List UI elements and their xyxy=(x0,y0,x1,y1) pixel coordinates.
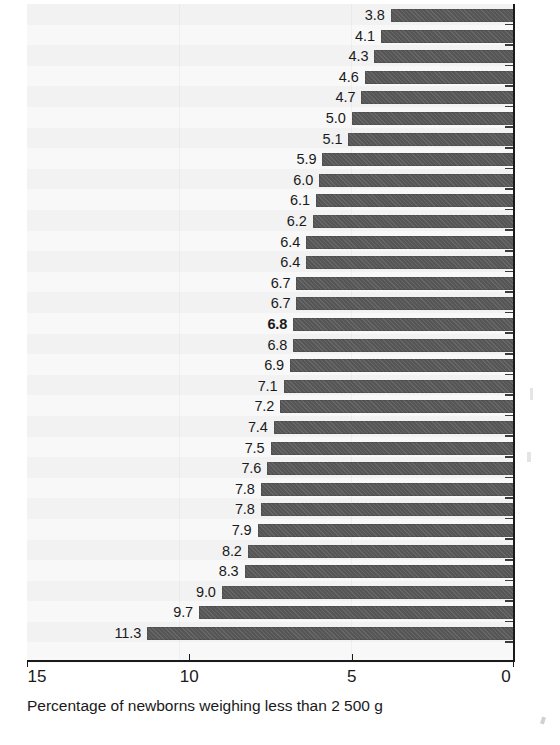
y-axis-tick xyxy=(505,188,513,190)
y-axis-tick xyxy=(505,312,513,314)
bar-value-label: 9.0 xyxy=(196,582,216,602)
x-axis-tick xyxy=(513,660,514,667)
y-axis-tick xyxy=(505,250,513,252)
bar xyxy=(245,565,514,578)
y-axis-tick xyxy=(505,518,513,520)
bar xyxy=(147,627,514,640)
margin-artifact-bottom xyxy=(527,452,531,462)
bar-row: 7.5 xyxy=(27,439,514,460)
y-axis-tick xyxy=(505,353,513,355)
bar xyxy=(352,112,514,125)
bar-row: 7.2 xyxy=(27,397,514,418)
x-axis-tick-label: 10 xyxy=(180,667,199,687)
x-axis-tick xyxy=(189,654,190,662)
margin-artifact-top xyxy=(530,388,533,400)
bar-row: 4.7 xyxy=(27,88,514,109)
y-axis-tick xyxy=(505,44,513,46)
bar xyxy=(348,133,514,146)
bar-value-label: 5.9 xyxy=(297,149,317,169)
bar-row: 5.0 xyxy=(27,109,514,130)
bar-value-label: 7.8 xyxy=(235,479,255,499)
bar xyxy=(322,153,514,166)
bar-value-label: 6.4 xyxy=(280,252,300,272)
bar xyxy=(306,256,514,269)
y-axis-tick xyxy=(505,229,513,231)
y-axis-tick xyxy=(505,291,513,293)
bar-value-label: 6.1 xyxy=(290,190,310,210)
bar xyxy=(296,277,514,290)
bar-value-label: 6.9 xyxy=(264,355,284,375)
y-axis-tick xyxy=(505,435,513,437)
bar-value-label: 11.3 xyxy=(114,623,141,643)
bar-row: 7.8 xyxy=(27,500,514,521)
y-axis-tick xyxy=(505,415,513,417)
bar-row: 7.8 xyxy=(27,480,514,501)
bar-value-label: 6.4 xyxy=(280,232,300,252)
bar-row: 7.6 xyxy=(27,459,514,480)
bar xyxy=(271,442,515,455)
bar xyxy=(222,586,514,599)
y-axis-tick xyxy=(505,374,513,376)
bar-value-label: 7.8 xyxy=(235,499,255,519)
bar xyxy=(381,30,514,43)
bar-row: 4.3 xyxy=(27,47,514,68)
bar-value-label: 7.5 xyxy=(245,438,265,458)
y-axis-tick xyxy=(505,477,513,479)
bar xyxy=(261,483,514,496)
y-axis-tick xyxy=(505,168,513,170)
bar-row: 6.0 xyxy=(27,171,514,192)
y-axis-tick xyxy=(505,559,513,561)
bar xyxy=(365,71,514,84)
bar-value-label: 5.0 xyxy=(326,108,346,128)
bar-value-label: 6.7 xyxy=(271,273,291,293)
y-axis-tick xyxy=(505,456,513,458)
bar xyxy=(319,174,514,187)
bar-row: 3.8 xyxy=(27,6,514,27)
bar-row: 5.9 xyxy=(27,150,514,171)
bar-row: 9.0 xyxy=(27,583,514,604)
bar-value-label: 6.2 xyxy=(287,211,307,231)
bar-row: 6.8 xyxy=(27,315,514,336)
y-axis-tick xyxy=(505,332,513,334)
bar-value-label: 4.7 xyxy=(336,87,356,107)
y-axis-line xyxy=(513,4,515,662)
plot-area: 3.84.14.34.64.75.05.15.96.06.16.26.46.46… xyxy=(27,4,514,660)
scan-artifact xyxy=(540,717,546,725)
y-axis-tick xyxy=(505,621,513,623)
y-axis-tick xyxy=(505,271,513,273)
y-axis-tick xyxy=(505,580,513,582)
bar-row: 7.9 xyxy=(27,521,514,542)
bar-value-label: 6.0 xyxy=(293,170,313,190)
bar-row: 4.1 xyxy=(27,27,514,48)
bar-value-label: 7.2 xyxy=(254,396,274,416)
bar-row: 5.1 xyxy=(27,130,514,151)
bar-value-label: 5.1 xyxy=(323,129,343,149)
bar xyxy=(293,318,514,331)
bar xyxy=(296,297,514,310)
bar-row: 6.1 xyxy=(27,191,514,212)
bar-value-label: 4.1 xyxy=(355,26,375,46)
bar-value-label: 4.6 xyxy=(339,67,359,87)
bar xyxy=(280,400,514,413)
bar-value-label: 9.7 xyxy=(173,602,193,622)
bar-value-label: 6.7 xyxy=(271,293,291,313)
bar-value-label: 7.1 xyxy=(258,376,278,396)
y-axis-tick xyxy=(505,126,513,128)
bar xyxy=(284,380,515,393)
x-axis-label: Percentage of newborns weighing less tha… xyxy=(27,697,383,715)
bar-row: 7.1 xyxy=(27,377,514,398)
bar-row: 6.9 xyxy=(27,356,514,377)
bar-row: 11.3 xyxy=(27,624,514,645)
bar-row: 7.4 xyxy=(27,418,514,439)
y-axis-tick xyxy=(505,600,513,602)
y-axis-tick xyxy=(505,209,513,211)
bar-row: 8.3 xyxy=(27,562,514,583)
y-axis-tick xyxy=(505,85,513,87)
bar-row: 6.4 xyxy=(27,233,514,254)
x-axis-tick xyxy=(352,654,353,662)
x-axis-line xyxy=(27,660,515,662)
y-axis-tick xyxy=(505,147,513,149)
y-axis-tick xyxy=(505,24,513,26)
y-axis-tick xyxy=(505,65,513,67)
bar xyxy=(274,421,514,434)
